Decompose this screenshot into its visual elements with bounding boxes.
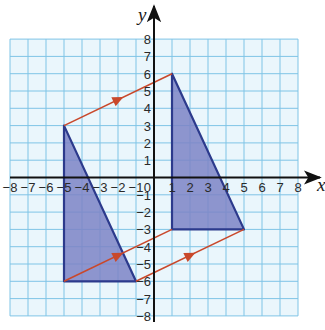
y-tick-label: −2: [136, 205, 151, 220]
x-axis-label: x: [316, 174, 325, 195]
x-tick-label: 5: [240, 180, 247, 195]
y-tick-label: −7: [136, 292, 151, 307]
x-tick-label: −4: [75, 180, 90, 195]
x-tick-label: 6: [258, 180, 265, 195]
x-tick-label: −8: [3, 180, 18, 195]
y-tick-label: −3: [136, 222, 151, 237]
x-tick-label: −6: [39, 180, 54, 195]
x-tick-label: −7: [21, 180, 36, 195]
y-tick-label: 5: [144, 84, 151, 99]
x-tick-label: 7: [276, 180, 283, 195]
y-tick-label: −5: [136, 257, 151, 272]
y-tick-label: 4: [144, 101, 151, 116]
x-tick-label: 3: [204, 180, 211, 195]
y-tick-label: −6: [136, 274, 151, 289]
y-tick-label: 8: [144, 32, 151, 47]
x-tick-label: 1: [168, 180, 175, 195]
y-tick-label: 3: [144, 119, 151, 134]
y-axis-label: y: [136, 4, 147, 25]
y-tick-label: 6: [144, 67, 151, 82]
x-tick-label: −3: [93, 180, 108, 195]
x-tick-label: 8: [294, 180, 301, 195]
y-tick-label: 2: [144, 136, 151, 151]
y-tick-label: 7: [144, 49, 151, 64]
x-tick-label: −5: [57, 180, 72, 195]
y-tick-label: 1: [144, 153, 151, 168]
x-tick-label: −2: [111, 180, 126, 195]
x-tick-label: 2: [186, 180, 193, 195]
x-tick-label: 4: [222, 180, 229, 195]
y-tick-label: −8: [136, 309, 151, 324]
origin-label: 0: [144, 180, 151, 195]
y-tick-label: −4: [136, 240, 151, 255]
coordinate-grid-diagram: −8−7−6−5−4−3−2−11234567887654321−1−2−3−4…: [0, 0, 325, 330]
